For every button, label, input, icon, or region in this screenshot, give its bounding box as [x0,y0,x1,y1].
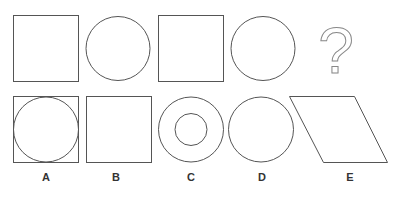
option-d-label: D [252,171,272,183]
sequence-square-1 [14,16,79,82]
question-mark-icon: ? [318,15,354,87]
option-d-circle[interactable] [229,97,294,162]
option-c-inner-circle[interactable] [175,114,207,146]
sequence-square-2 [159,16,224,82]
option-c-outer-circle[interactable] [159,97,224,162]
option-b-label: B [106,171,126,183]
option-e-parallelogram[interactable] [290,97,388,163]
option-a-circle[interactable] [14,97,79,162]
sequence-circle-2 [231,17,295,81]
option-b-square[interactable] [87,97,152,163]
sequence-circle-1 [86,17,150,81]
option-a-label: A [36,171,56,183]
puzzle-diagram: ? [0,0,401,198]
option-c-label: C [181,171,201,183]
option-e-label: E [340,171,360,183]
